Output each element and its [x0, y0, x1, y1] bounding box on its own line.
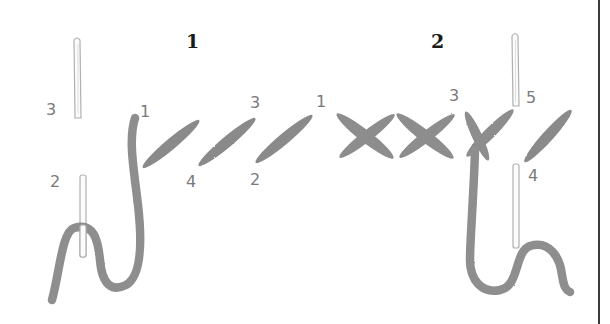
label-needle-top-point-2: 5	[526, 88, 536, 107]
needle-icon	[512, 34, 519, 107]
label-thread-start-point: 1	[140, 102, 150, 121]
cross-stitches	[333, 106, 576, 166]
label-stitch-a-bottom: 4	[186, 172, 196, 191]
label-stitch-c-top: 1	[316, 92, 326, 111]
label-needle-bottom-point: 2	[50, 172, 60, 191]
stitch-illustration	[0, 0, 610, 324]
needle-icon	[513, 164, 519, 248]
label-stitch-b-bottom: 2	[250, 170, 260, 189]
label-stitch-b-top: 3	[250, 93, 260, 112]
step-number-2: 2	[431, 30, 444, 52]
label-cross-top-point: 3	[449, 86, 459, 105]
diagonal-stitches	[139, 111, 316, 172]
stitch-diagram: 1 2 3 2 1 4 3 2 1 3 5 4	[0, 0, 610, 324]
label-needle-top-point: 3	[46, 100, 56, 119]
label-needle-bottom-point-2: 4	[528, 166, 538, 185]
needle-icon	[74, 38, 81, 118]
right-border-rule	[598, 0, 600, 324]
thread-icon	[470, 150, 570, 292]
needle-front-icon	[80, 225, 86, 257]
step-number-1: 1	[186, 30, 199, 52]
thread-icon	[52, 118, 140, 300]
